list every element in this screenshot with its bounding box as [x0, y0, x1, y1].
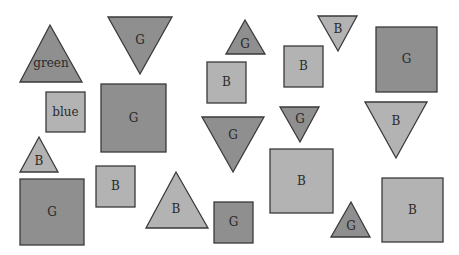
- triangle-green: G: [202, 117, 264, 172]
- square-blue: B: [207, 62, 246, 103]
- shape-body: [202, 117, 264, 172]
- triangle-green: G: [280, 107, 319, 142]
- shape-body: [146, 172, 208, 228]
- shape-label: G: [47, 205, 57, 219]
- triangle-blue: B: [146, 172, 208, 228]
- shape-label: B: [222, 75, 231, 89]
- triangle-blue: B: [20, 137, 58, 172]
- triangle-blue: B: [318, 16, 357, 51]
- shape-label: G: [346, 219, 356, 233]
- shape-body: [365, 102, 427, 158]
- shape-label: B: [172, 202, 181, 216]
- square-blue: blue: [46, 92, 85, 132]
- shape-label: B: [408, 203, 417, 217]
- shape-label: green: [33, 56, 69, 70]
- shape-label: G: [135, 33, 145, 47]
- triangle-blue: B: [365, 102, 427, 158]
- shapes-canvas: greenGGBGblueGBBGGBBGBBGBGB: [0, 0, 459, 255]
- shape-label: G: [402, 52, 412, 66]
- shape-label: B: [334, 22, 343, 36]
- shape-label: G: [229, 215, 239, 229]
- triangle-green: G: [331, 202, 370, 237]
- shape-label: B: [299, 59, 308, 73]
- triangle-green: green: [20, 25, 82, 82]
- shape-label: G: [228, 128, 238, 142]
- shape-body: [20, 25, 82, 82]
- square-blue: B: [96, 166, 135, 207]
- shape-label: blue: [52, 105, 78, 119]
- shape-label: B: [392, 114, 401, 128]
- shapes-diagram: greenGGBGblueGBBGGBBGBBGBGB: [0, 0, 459, 255]
- square-green: G: [214, 202, 253, 243]
- triangle-green: G: [108, 17, 172, 74]
- triangle-green: G: [226, 20, 265, 54]
- shape-label: B: [297, 174, 306, 188]
- square-blue: B: [284, 46, 323, 87]
- shape-label: B: [111, 179, 120, 193]
- shape-label: G: [295, 112, 305, 126]
- shape-label: G: [129, 111, 139, 125]
- shape-label: G: [240, 37, 250, 51]
- shape-label: B: [35, 154, 44, 168]
- square-green: G: [376, 27, 437, 92]
- square-green: G: [20, 179, 84, 245]
- square-blue: B: [270, 149, 333, 213]
- square-green: G: [101, 84, 166, 152]
- square-blue: B: [382, 178, 443, 242]
